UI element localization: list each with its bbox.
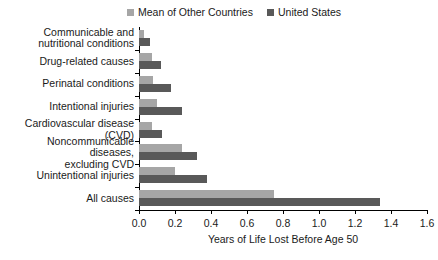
y-axis-label: Unintentional injuries xyxy=(0,164,134,187)
x-axis-tick xyxy=(211,210,212,214)
bar-group xyxy=(139,96,427,119)
x-axis-tick-label: 0.2 xyxy=(168,217,183,230)
bar xyxy=(139,190,274,198)
x-axis-tick-label: 0.6 xyxy=(240,217,255,230)
bar-chart: Mean of Other Countries United States Co… xyxy=(0,0,438,260)
plot-area xyxy=(139,27,427,210)
y-axis-label: Noncommunicable diseases,excluding CVD xyxy=(0,141,134,164)
x-axis-tick xyxy=(355,210,356,214)
legend-swatch-icon xyxy=(127,9,134,16)
bar-group xyxy=(139,119,427,142)
bar-group xyxy=(139,27,427,50)
bar xyxy=(139,167,175,175)
x-axis-tick-label: 0.0 xyxy=(132,217,147,230)
legend-swatch-icon xyxy=(267,9,274,16)
x-axis-tick xyxy=(427,210,428,214)
bar xyxy=(139,99,157,107)
bar xyxy=(139,38,150,46)
y-axis-label: Drug-related causes xyxy=(0,50,134,73)
x-axis-tick-labels: 0.00.20.40.60.81.01.21.41.6 xyxy=(139,217,427,231)
legend-label: Mean of Other Countries xyxy=(138,6,253,18)
x-axis-tick-label: 1.4 xyxy=(384,217,399,230)
x-axis-tick xyxy=(139,210,140,214)
x-axis-tick-label: 1.2 xyxy=(348,217,363,230)
bar xyxy=(139,130,162,138)
x-axis-tick-label: 1.0 xyxy=(312,217,327,230)
bar-group xyxy=(139,50,427,73)
x-axis-tick-label: 0.4 xyxy=(204,217,219,230)
bar xyxy=(139,107,182,115)
bar xyxy=(139,53,152,61)
legend-item-united-states: United States xyxy=(267,6,341,18)
legend-label: United States xyxy=(278,6,341,18)
bar xyxy=(139,198,380,206)
bar xyxy=(139,84,171,92)
x-axis-tick-label: 1.6 xyxy=(420,217,435,230)
bar-group xyxy=(139,141,427,164)
y-axis-category-labels: Communicable andnutritional conditionsDr… xyxy=(0,27,134,210)
chart-legend: Mean of Other Countries United States xyxy=(0,6,438,18)
y-axis-label: All causes xyxy=(0,187,134,210)
y-axis-label: Intentional injuries xyxy=(0,96,134,119)
bar xyxy=(139,61,161,69)
y-axis-label: Communicable andnutritional conditions xyxy=(0,27,134,50)
y-axis-label: Perinatal conditions xyxy=(0,73,134,96)
bar-group xyxy=(139,73,427,96)
x-axis-tick xyxy=(391,210,392,214)
x-axis-tick xyxy=(175,210,176,214)
x-axis-tick xyxy=(319,210,320,214)
x-axis-tick xyxy=(247,210,248,214)
bar-group xyxy=(139,164,427,187)
bar xyxy=(139,122,152,130)
bar xyxy=(139,144,182,152)
x-axis-ticks xyxy=(139,210,427,215)
bar-rows xyxy=(139,27,427,210)
bar xyxy=(139,30,144,38)
legend-item-mean-of-other-countries: Mean of Other Countries xyxy=(127,6,253,18)
bar-group xyxy=(139,187,427,210)
bar xyxy=(139,175,207,183)
x-axis-tick xyxy=(283,210,284,214)
bar xyxy=(139,76,153,84)
x-axis-tick-label: 0.8 xyxy=(276,217,291,230)
bar xyxy=(139,152,197,160)
x-axis-title: Years of Life Lost Before Age 50 xyxy=(139,233,427,246)
